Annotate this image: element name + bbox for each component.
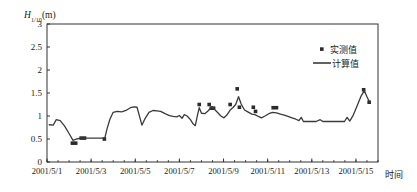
y-tick-label: 1: [38, 111, 43, 121]
x-axis-title: 时间: [385, 169, 403, 180]
x-tick-label: 2001/5/11: [250, 166, 285, 176]
y-axis-title-unit: (m): [42, 10, 56, 21]
x-tick-label: 2001/5/5: [120, 166, 151, 176]
series-marker-measured: [228, 103, 232, 107]
data-series-group: [49, 87, 371, 145]
series-marker-measured: [207, 103, 211, 107]
series-marker-measured: [71, 141, 75, 145]
wave-height-time-series-chart: H1/10(m) 00.511.522.53 2001/5/12001/5/32…: [0, 0, 417, 192]
legend-label-calculated: 计算值: [332, 58, 359, 69]
y-tick-label: 1.5: [31, 88, 43, 98]
y-tick-label: 3: [38, 19, 43, 29]
x-tick-label: 2001/5/9: [208, 166, 239, 176]
y-tick-label: 2.5: [31, 42, 43, 52]
x-tick-label: 2001/5/1: [32, 166, 63, 176]
series-marker-measured: [74, 141, 78, 145]
y-tick-label: 2: [38, 65, 43, 75]
series-marker-measured: [271, 106, 275, 110]
x-tick-label: 2001/5/7: [164, 166, 195, 176]
legend-label-measured: 实测值: [330, 44, 357, 55]
x-axis-ticks: 2001/5/12001/5/32001/5/52001/5/72001/5/9…: [32, 159, 378, 177]
series-marker-measured: [235, 87, 239, 91]
x-tick-label: 2001/5/13: [294, 166, 329, 176]
series-marker-measured: [238, 105, 242, 109]
y-tick-label: 0.5: [31, 134, 43, 144]
x-tick-label: 2001/5/15: [339, 166, 374, 176]
x-tick-label: 2001/5/3: [76, 166, 107, 176]
series-line-calculated: [49, 91, 369, 141]
legend-marker-measured: [320, 47, 324, 51]
legend: 实测值 计算值: [295, 40, 377, 72]
series-marker-measured: [254, 110, 258, 114]
series-marker-measured: [252, 105, 256, 109]
series-marker-measured: [197, 103, 201, 107]
chart-figure: H1/10(m) 00.511.522.53 2001/5/12001/5/32…: [0, 0, 417, 192]
series-marker-measured: [275, 106, 279, 110]
